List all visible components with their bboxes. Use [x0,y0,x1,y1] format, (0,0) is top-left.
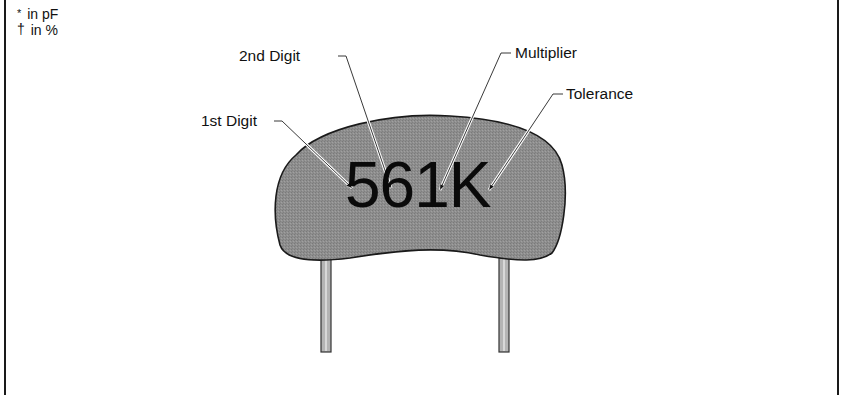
callout-first-digit: 1st Digit [201,112,257,130]
callout-second-digit: 2nd Digit [239,47,300,65]
capacitor-leads [321,258,509,352]
capacitor-marking: 561K [345,150,490,220]
callout-multiplier: Multiplier [515,44,577,62]
callout-tolerance: Tolerance [566,85,633,103]
